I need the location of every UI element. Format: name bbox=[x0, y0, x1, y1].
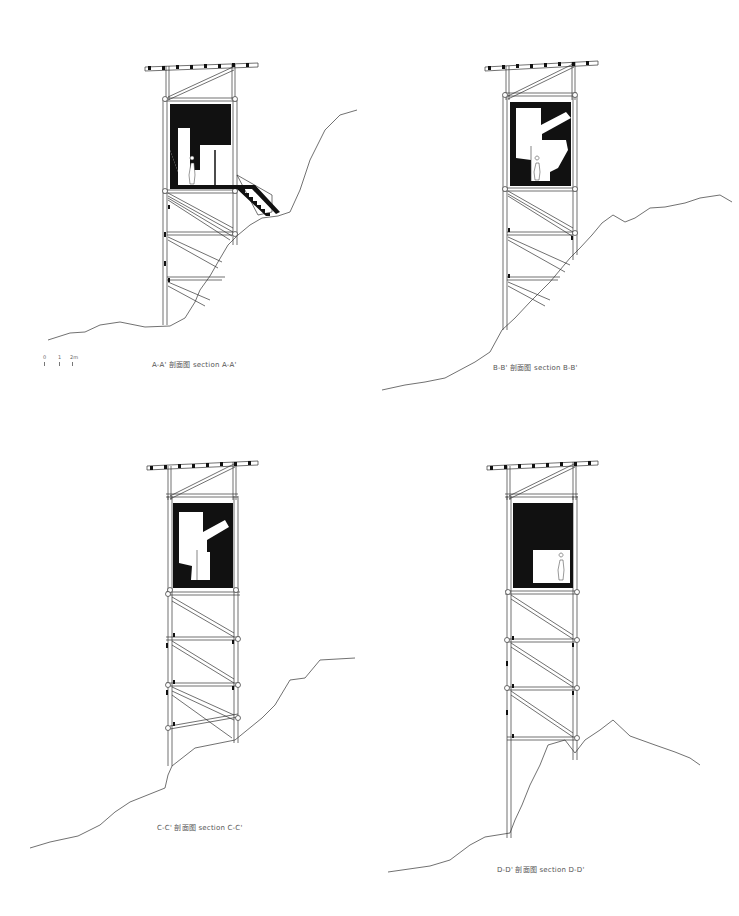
section-b-caption: B-B' 剖面图 section B-B' bbox=[493, 362, 578, 372]
section-b-drawing: B-B' 剖面图 section B-B' bbox=[370, 0, 739, 400]
section-d-drawing: D-D' 剖面图 section D-D' bbox=[370, 440, 739, 916]
section-d-linework bbox=[370, 440, 739, 916]
section-a-linework bbox=[0, 0, 370, 380]
section-a-drawing: 0 1 2m A-A' 剖面图 section A-A' bbox=[0, 0, 370, 380]
scale-tick bbox=[59, 362, 60, 366]
section-d-caption: D-D' 剖面图 section D-D' bbox=[497, 864, 585, 874]
scale-label-1: 1 bbox=[58, 354, 61, 360]
section-c-linework bbox=[0, 440, 370, 860]
section-c-drawing: C-C' 剖面图 section C-C' bbox=[0, 440, 370, 860]
scale-tick bbox=[72, 362, 73, 366]
scale-bar: 0 1 2m bbox=[43, 354, 83, 368]
section-c-caption: C-C' 剖面图 section C-C' bbox=[157, 822, 243, 832]
section-b-linework bbox=[370, 0, 739, 400]
scale-label-2: 2m bbox=[70, 354, 78, 360]
scale-tick bbox=[44, 362, 45, 366]
scale-label-0: 0 bbox=[43, 354, 46, 360]
section-a-caption: A-A' 剖面图 section A-A' bbox=[152, 359, 237, 369]
